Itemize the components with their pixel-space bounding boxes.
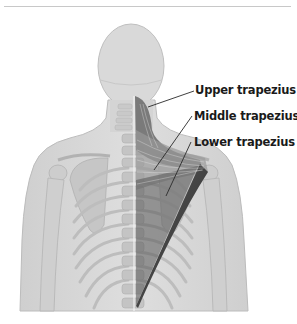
label-middle-trapezius: Middle trapezius [194, 109, 297, 123]
label-upper-trapezius: Upper trapezius [195, 83, 296, 97]
head [98, 24, 164, 108]
anatomy-illustration [0, 0, 297, 324]
label-lower-trapezius: Lower trapezius [194, 135, 295, 149]
